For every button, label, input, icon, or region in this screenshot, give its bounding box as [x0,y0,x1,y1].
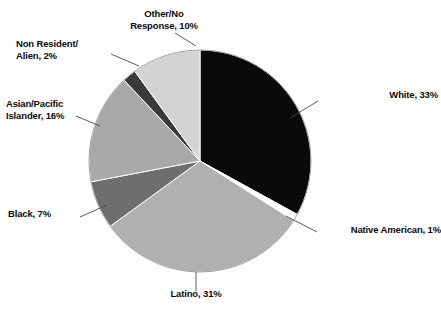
pie-label-other-no-response: Other/No Response, 10% [108,8,220,32]
pie-slice-group [89,50,311,272]
pie-label-non-resident-alien: Non Resident/ Alien, 2% [16,38,134,62]
pie-label-latino: Latino, 31% [132,288,260,300]
pie-chart-page: Other/No Response, 10% Non Resident/ Ali… [0,0,441,315]
pie-label-asian-pacific-islander: Asian/Pacific Islander, 16% [6,98,124,122]
leader-line-other-no-response [175,33,196,46]
pie-label-white: White, 33% [322,89,438,101]
pie-label-black: Black, 7% [8,208,114,220]
pie-label-native-american: Native American, 1% [320,224,441,236]
